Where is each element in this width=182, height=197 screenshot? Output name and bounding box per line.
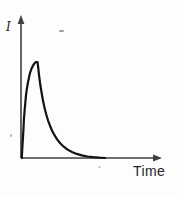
scan-artifact [59,30,64,32]
current-curve [22,62,105,158]
x-axis-label: Time [133,164,165,178]
scan-artifact [98,166,101,168]
x-axis-arrowhead-icon [153,155,162,162]
y-axis-arrowhead-icon [18,15,25,24]
y-axis-label: I [6,21,11,33]
scan-artifact [10,134,12,137]
current-vs-time-chart: I Time [0,0,182,197]
